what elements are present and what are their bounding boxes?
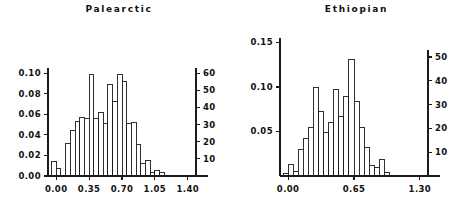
right-y-axis-tick-label: 20	[435, 123, 448, 133]
histogram-bar	[136, 144, 141, 176]
histogram-bar	[52, 162, 57, 176]
histogram-bar	[99, 112, 104, 176]
histogram-bar	[89, 74, 94, 176]
histogram-bar	[319, 111, 324, 176]
histogram-bar	[145, 161, 150, 176]
right-y-axis-tick-label: 30	[435, 100, 448, 110]
histogram-bar	[155, 171, 160, 176]
histogram-bars	[52, 74, 165, 176]
right-y-axis-tick-label: 60	[203, 68, 216, 78]
x-axis-tick-label: 0.65	[343, 184, 366, 194]
left-y-axis-tick-label: 0.15	[250, 37, 273, 47]
plot-area-ethiopian: 0.000.651.300.050.100.151020304050	[238, 0, 475, 208]
histogram-bar	[80, 117, 85, 176]
left-y-axis-tick-label: 0.04	[18, 130, 41, 140]
x-axis-tick-label: 0.00	[277, 184, 300, 194]
right-y-axis-tick-label: 50	[203, 85, 216, 95]
histogram-bar	[359, 127, 364, 176]
left-y-axis-tick-label: 0.10	[18, 68, 41, 78]
histogram-bar	[141, 164, 146, 176]
right-y-axis-tick-label: 10	[435, 147, 448, 157]
histogram-bar	[334, 90, 339, 176]
histogram-bars	[283, 59, 389, 176]
x-axis-tick-label: 1.05	[144, 184, 167, 194]
left-y-axis-tick-label: 0.00	[18, 171, 41, 181]
histogram-bar	[374, 168, 379, 176]
x-axis-tick-label: 1.40	[176, 184, 199, 194]
histogram-bar	[298, 149, 303, 176]
histogram-bar	[339, 116, 344, 176]
histogram-bar	[354, 101, 359, 176]
right-y-axis-tick-label: 50	[435, 52, 448, 62]
left-y-axis-tick-label: 0.06	[18, 109, 41, 119]
histogram-figure: Palearctic 0.000.350.701.051.400.000.020…	[0, 0, 475, 208]
histogram-bar	[84, 118, 89, 176]
left-y-axis-tick-label: 0.08	[18, 89, 41, 99]
right-y-axis-tick-label: 40	[203, 102, 216, 112]
histogram-bar	[113, 102, 118, 176]
x-axis-tick-label: 0.00	[45, 184, 68, 194]
x-axis-tick-label: 0.35	[78, 184, 101, 194]
left-y-axis-tick-label: 0.05	[250, 126, 273, 136]
histogram-bar	[329, 123, 334, 176]
histogram-bar	[349, 59, 354, 176]
chart-panel-palearctic: Palearctic 0.000.350.701.051.400.000.020…	[0, 0, 238, 208]
histogram-bar	[369, 165, 374, 176]
histogram-bar	[288, 164, 293, 176]
x-axis-tick-label: 1.30	[409, 184, 432, 194]
histogram-bar	[293, 172, 298, 176]
right-y-axis-tick-label: 30	[203, 120, 216, 130]
histogram-bar	[70, 131, 75, 176]
histogram-bar	[308, 128, 313, 176]
x-axis-tick-label: 0.70	[111, 184, 134, 194]
histogram-bar	[303, 139, 308, 176]
histogram-bar	[94, 118, 99, 176]
chart-panel-ethiopian: Ethiopian 0.000.651.300.050.100.15102030…	[238, 0, 475, 208]
histogram-bar	[108, 84, 113, 176]
histogram-bar	[117, 74, 122, 176]
histogram-bar	[364, 148, 369, 176]
histogram-bar	[379, 159, 384, 176]
left-y-axis-tick-label: 0.02	[18, 150, 41, 160]
histogram-bar	[313, 88, 318, 176]
histogram-bar	[75, 121, 80, 176]
histogram-bar	[131, 123, 136, 176]
right-y-axis-tick-label: 10	[203, 154, 216, 164]
histogram-bar	[66, 143, 71, 176]
histogram-bar	[344, 97, 349, 176]
histogram-bar	[122, 81, 127, 176]
right-y-axis-tick-label: 40	[435, 76, 448, 86]
histogram-bar	[324, 132, 329, 176]
histogram-bar	[103, 124, 108, 176]
histogram-bar	[127, 124, 132, 176]
right-y-axis-tick-label: 20	[203, 137, 216, 147]
histogram-bar	[56, 169, 61, 176]
plot-area-palearctic: 0.000.350.701.051.400.000.020.040.060.08…	[0, 0, 238, 208]
left-y-axis-tick-label: 0.10	[250, 82, 273, 92]
